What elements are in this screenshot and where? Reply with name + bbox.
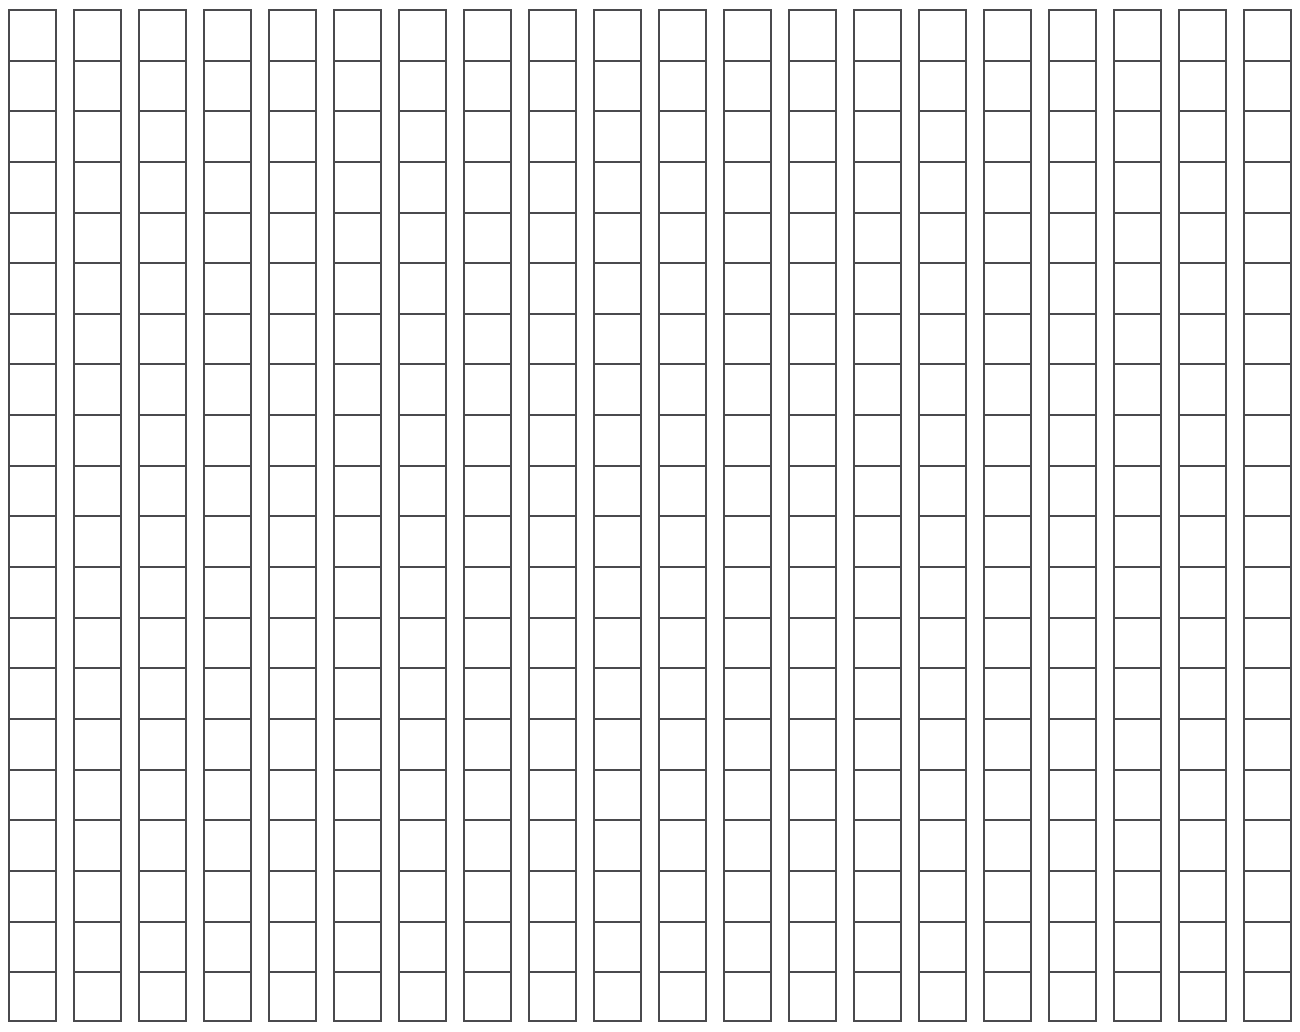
grid-cell[interactable] [73, 819, 122, 870]
grid-cell[interactable] [593, 718, 642, 769]
grid-cell[interactable] [8, 769, 57, 820]
grid-cell[interactable] [658, 566, 707, 617]
grid-cell[interactable] [138, 667, 187, 718]
grid-cell[interactable] [853, 9, 902, 60]
grid-cell[interactable] [333, 617, 382, 668]
grid-cell[interactable] [528, 769, 577, 820]
grid-cell[interactable] [853, 363, 902, 414]
grid-cell[interactable] [1243, 971, 1292, 1022]
grid-cell[interactable] [788, 60, 837, 111]
grid-cell[interactable] [918, 414, 967, 465]
grid-cell[interactable] [1048, 414, 1097, 465]
grid-cell[interactable] [528, 870, 577, 921]
grid-cell[interactable] [983, 262, 1032, 313]
grid-cell[interactable] [528, 262, 577, 313]
grid-cell[interactable] [723, 971, 772, 1022]
grid-cell[interactable] [8, 60, 57, 111]
grid-cell[interactable] [463, 769, 512, 820]
grid-cell[interactable] [918, 262, 967, 313]
grid-cell[interactable] [203, 819, 252, 870]
grid-cell[interactable] [528, 9, 577, 60]
grid-cell[interactable] [723, 262, 772, 313]
grid-cell[interactable] [1113, 515, 1162, 566]
grid-cell[interactable] [788, 617, 837, 668]
grid-cell[interactable] [1243, 262, 1292, 313]
grid-cell[interactable] [918, 921, 967, 972]
grid-cell[interactable] [593, 769, 642, 820]
grid-cell[interactable] [918, 870, 967, 921]
grid-cell[interactable] [723, 414, 772, 465]
grid-cell[interactable] [1113, 718, 1162, 769]
grid-cell[interactable] [73, 414, 122, 465]
grid-cell[interactable] [333, 465, 382, 516]
grid-cell[interactable] [1178, 515, 1227, 566]
grid-cell[interactable] [268, 870, 317, 921]
grid-cell[interactable] [723, 110, 772, 161]
grid-cell[interactable] [398, 667, 447, 718]
grid-cell[interactable] [788, 819, 837, 870]
grid-cell[interactable] [203, 262, 252, 313]
grid-cell[interactable] [983, 60, 1032, 111]
grid-cell[interactable] [268, 921, 317, 972]
grid-cell[interactable] [268, 262, 317, 313]
grid-cell[interactable] [463, 921, 512, 972]
grid-cell[interactable] [203, 667, 252, 718]
grid-cell[interactable] [333, 566, 382, 617]
grid-cell[interactable] [658, 769, 707, 820]
grid-cell[interactable] [528, 313, 577, 364]
grid-cell[interactable] [1243, 718, 1292, 769]
grid-cell[interactable] [723, 363, 772, 414]
grid-cell[interactable] [918, 60, 967, 111]
grid-cell[interactable] [983, 819, 1032, 870]
grid-cell[interactable] [138, 60, 187, 111]
grid-cell[interactable] [983, 212, 1032, 263]
grid-cell[interactable] [138, 212, 187, 263]
grid-cell[interactable] [203, 617, 252, 668]
grid-cell[interactable] [658, 617, 707, 668]
grid-cell[interactable] [1113, 212, 1162, 263]
grid-cell[interactable] [333, 667, 382, 718]
grid-cell[interactable] [723, 212, 772, 263]
grid-cell[interactable] [853, 60, 902, 111]
grid-cell[interactable] [853, 870, 902, 921]
grid-cell[interactable] [788, 971, 837, 1022]
grid-cell[interactable] [788, 769, 837, 820]
grid-cell[interactable] [1178, 566, 1227, 617]
grid-cell[interactable] [983, 566, 1032, 617]
grid-cell[interactable] [203, 161, 252, 212]
grid-cell[interactable] [723, 769, 772, 820]
grid-cell[interactable] [138, 161, 187, 212]
grid-cell[interactable] [983, 515, 1032, 566]
grid-cell[interactable] [528, 212, 577, 263]
grid-cell[interactable] [918, 515, 967, 566]
grid-cell[interactable] [853, 566, 902, 617]
grid-cell[interactable] [333, 212, 382, 263]
grid-cell[interactable] [853, 515, 902, 566]
grid-cell[interactable] [593, 465, 642, 516]
grid-cell[interactable] [1243, 617, 1292, 668]
grid-cell[interactable] [398, 566, 447, 617]
grid-cell[interactable] [1048, 60, 1097, 111]
grid-cell[interactable] [268, 769, 317, 820]
grid-cell[interactable] [983, 769, 1032, 820]
grid-cell[interactable] [333, 515, 382, 566]
grid-cell[interactable] [918, 971, 967, 1022]
grid-cell[interactable] [333, 769, 382, 820]
grid-cell[interactable] [853, 313, 902, 364]
grid-cell[interactable] [463, 971, 512, 1022]
grid-cell[interactable] [268, 566, 317, 617]
grid-cell[interactable] [528, 465, 577, 516]
grid-cell[interactable] [723, 718, 772, 769]
grid-cell[interactable] [1048, 819, 1097, 870]
grid-cell[interactable] [1178, 870, 1227, 921]
grid-cell[interactable] [73, 9, 122, 60]
grid-cell[interactable] [1113, 110, 1162, 161]
grid-cell[interactable] [1048, 212, 1097, 263]
grid-cell[interactable] [1048, 465, 1097, 516]
grid-cell[interactable] [398, 60, 447, 111]
grid-cell[interactable] [723, 60, 772, 111]
grid-cell[interactable] [658, 363, 707, 414]
grid-cell[interactable] [918, 9, 967, 60]
grid-cell[interactable] [983, 971, 1032, 1022]
grid-cell[interactable] [658, 971, 707, 1022]
